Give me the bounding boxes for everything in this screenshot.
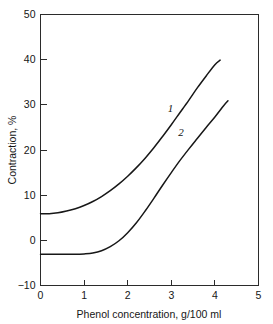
series-label-1: 1 — [168, 102, 174, 114]
x-tick-label: 3 — [168, 289, 174, 301]
x-tick-label: 1 — [81, 289, 87, 301]
x-axis-title: Phenol concentration, g/100 ml — [77, 308, 222, 320]
y-tick-label: 20 — [24, 144, 36, 156]
y-tick-label: 10 — [24, 189, 36, 201]
x-axis-ticks — [41, 280, 259, 286]
y-tick-label: −10 — [18, 279, 36, 291]
axis-frame — [41, 15, 259, 286]
x-axis-tick-labels: 012345 — [38, 289, 262, 301]
x-tick-label: 5 — [256, 289, 262, 301]
x-tick-label: 4 — [212, 289, 218, 301]
data-curve-1 — [41, 60, 221, 214]
data-series-group — [41, 60, 228, 254]
y-axis-ticks — [41, 15, 47, 286]
y-axis-tick-labels: 50403020100−10 — [18, 8, 36, 291]
data-curve-2 — [41, 101, 228, 255]
chart-figure: 50403020100−10 012345 12 Phenol concentr… — [0, 0, 273, 324]
y-tick-label: 0 — [30, 234, 36, 246]
x-tick-label: 2 — [125, 289, 131, 301]
y-tick-label: 40 — [24, 53, 36, 65]
y-axis-title: Contraction, % — [6, 116, 18, 185]
series-label-2: 2 — [178, 126, 184, 138]
line-chart-svg: 50403020100−10 012345 12 Phenol concentr… — [0, 0, 273, 324]
y-tick-label: 50 — [24, 8, 36, 20]
y-tick-label: 30 — [24, 98, 36, 110]
plot-frame — [41, 15, 259, 286]
x-tick-label: 0 — [38, 289, 44, 301]
